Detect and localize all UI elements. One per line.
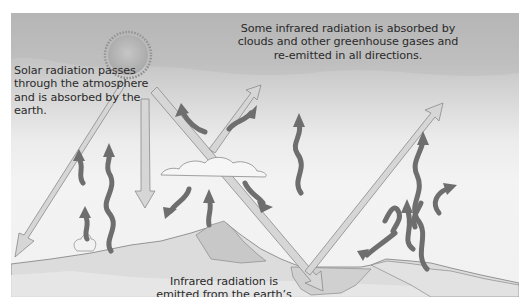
infrared-arrowheads	[73, 103, 457, 261]
greenhouse-diagram: Solar radiation passes through the atmos…	[11, 13, 519, 297]
infrared-emitted-label: Infrared radiation is emitted from the e…	[149, 275, 299, 297]
infrared-absorbed-label: Some infrared radiation is absorbed by c…	[233, 22, 463, 62]
cloud-icon	[161, 157, 266, 177]
solar-radiation-label: Solar radiation passes through the atmos…	[14, 64, 154, 118]
